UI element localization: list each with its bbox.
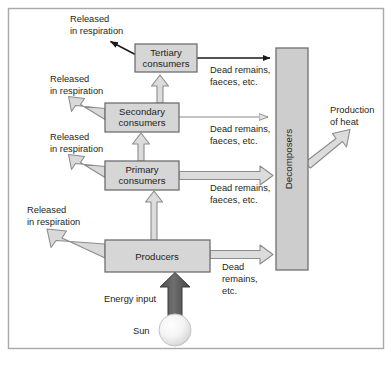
diagram-canvas: Decomposers Tertiary consumers Secondary… — [0, 0, 392, 366]
respiration-label-primary-line1: Released — [50, 132, 89, 142]
box-primary-consumers-label-line1: Primary — [125, 164, 158, 175]
sun-icon — [159, 314, 191, 346]
respiration-label-producers-line2: in respiration — [27, 217, 80, 227]
respiration-label-secondary-line2: in respiration — [50, 86, 103, 96]
sun-label: Sun — [133, 326, 150, 336]
box-tertiary-consumers[interactable]: Tertiary consumers — [135, 44, 197, 72]
respiration-label-tertiary-line1: Released — [70, 14, 109, 24]
respiration-label-primary-line2: in respiration — [50, 144, 103, 154]
dead-remains-label-secondary-line2: faeces, etc. — [210, 136, 258, 146]
dead-remains-label-producers-line3: etc. — [222, 286, 237, 296]
energy-flow-diagram: Decomposers Tertiary consumers Secondary… — [0, 0, 392, 366]
production-of-heat-label-line1: Production — [330, 105, 374, 115]
box-secondary-consumers[interactable]: Secondary consumers — [105, 103, 179, 132]
dead-remains-label-primary-line2: faeces, etc. — [210, 195, 258, 205]
box-tertiary-consumers-label-line2: consumers — [143, 58, 190, 69]
box-secondary-consumers-label-line1: Secondary — [119, 106, 165, 117]
dead-remains-label-producers-line1: Dead — [222, 262, 244, 272]
box-primary-consumers-label-line2: consumers — [119, 175, 166, 186]
box-primary-consumers[interactable]: Primary consumers — [105, 161, 179, 190]
production-of-heat-label-line2: of heat — [330, 117, 359, 127]
respiration-label-secondary-line1: Released — [50, 74, 89, 84]
energy-input-label: Energy input — [104, 294, 157, 304]
dead-remains-label-tertiary-line1: Dead remains, — [210, 65, 270, 75]
box-producers[interactable]: Producers — [105, 240, 210, 272]
box-decomposers-label: Decomposers — [283, 129, 294, 190]
respiration-label-producers-line1: Released — [27, 205, 66, 215]
dead-remains-label-tertiary-line2: faeces, etc. — [210, 77, 258, 87]
box-tertiary-consumers-label-line1: Tertiary — [150, 47, 182, 58]
box-producers-label: Producers — [135, 251, 179, 262]
box-decomposers[interactable]: Decomposers — [276, 48, 308, 270]
dead-remains-label-primary-line1: Dead remains, — [210, 183, 270, 193]
dead-remains-label-producers-line2: remains, — [222, 274, 258, 284]
box-secondary-consumers-label-line2: consumers — [119, 117, 166, 128]
dead-remains-label-secondary-line1: Dead remains, — [210, 124, 270, 134]
respiration-label-tertiary-line2: in respiration — [70, 26, 123, 36]
